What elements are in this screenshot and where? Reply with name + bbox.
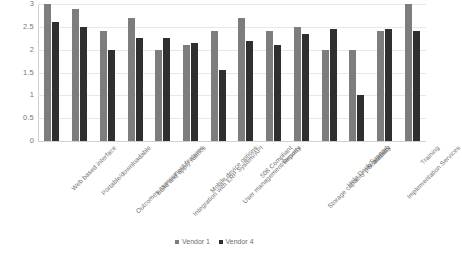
bar-group [66, 4, 94, 141]
bar [191, 43, 198, 141]
x-axis-tick-label: Mobile device options [209, 144, 259, 194]
bar [80, 27, 87, 141]
bar-group [93, 4, 121, 141]
legend-swatch-icon [175, 240, 179, 244]
bar [302, 34, 309, 141]
bar [294, 27, 301, 141]
bar [108, 50, 115, 141]
legend-item-label: Vendor 1 [182, 238, 210, 246]
bar [52, 22, 59, 141]
legend-item[interactable]: Vendor 4 [219, 238, 254, 246]
bar [219, 70, 226, 141]
bar [128, 18, 135, 141]
bar-group [371, 4, 399, 141]
bar-group [177, 4, 205, 141]
x-axis-tick-label: Integration with ERP System/API [191, 144, 264, 217]
bar [413, 31, 420, 141]
y-axis-tick-label: 0.5 [2, 114, 34, 122]
y-axis-tick-label: 2.5 [2, 23, 34, 31]
y-axis-tick-label: 0 [2, 137, 34, 145]
y-axis-tick-label: 3 [2, 0, 34, 8]
bar-group [232, 4, 260, 141]
bar [44, 4, 51, 141]
legend-item-label: Vendor 4 [226, 238, 254, 246]
bar [405, 4, 412, 141]
bar [238, 18, 245, 141]
bar [246, 41, 253, 141]
x-axis-tick-label: Build and apply rubrics [155, 144, 207, 196]
bar [100, 31, 107, 141]
y-axis-tick-label: 1 [2, 91, 34, 99]
bar [274, 45, 281, 141]
bar-group [287, 4, 315, 141]
bar [322, 50, 329, 141]
plot-area [38, 4, 426, 141]
bar [349, 50, 356, 141]
bar-group [38, 4, 66, 141]
bar [163, 38, 170, 141]
y-axis: 00.511.522.53 [0, 0, 34, 145]
bar-group [343, 4, 371, 141]
bar [357, 95, 364, 141]
legend-swatch-icon [219, 240, 223, 244]
bar [266, 31, 273, 141]
bar [183, 45, 190, 141]
bar-group [260, 4, 288, 141]
legend-item[interactable]: Vendor 1 [175, 238, 210, 246]
x-axis-tick-labels: Web based interfacePortable/downloadable… [38, 142, 426, 232]
bar [155, 50, 162, 141]
bar-group [121, 4, 149, 141]
bar-groups [38, 4, 426, 141]
bar [211, 31, 218, 141]
bar-group [204, 4, 232, 141]
bar-group [315, 4, 343, 141]
bar [330, 29, 337, 141]
bar-group [149, 4, 177, 141]
bar-group [398, 4, 426, 141]
bar [377, 31, 384, 141]
bar [136, 38, 143, 141]
bar [385, 29, 392, 141]
y-axis-tick-label: 1.5 [2, 69, 34, 77]
y-axis-tick-label: 2 [2, 46, 34, 54]
bar [72, 9, 79, 141]
chart-legend: Vendor 1Vendor 4 [0, 238, 429, 246]
